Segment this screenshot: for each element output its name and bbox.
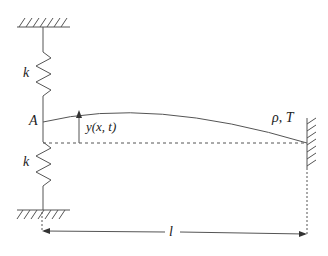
- bottom-spring-icon: [36, 122, 51, 210]
- length-dimension-left: [44, 231, 165, 232]
- top-spring-icon: [36, 27, 51, 122]
- length-dimension-right: [180, 232, 305, 234]
- bottom-ground-icon: [17, 210, 70, 219]
- string-props-label: ρ, T: [272, 111, 294, 125]
- diagram-graphics: [0, 0, 328, 256]
- string-curve: [43, 113, 307, 143]
- length-label: l: [169, 225, 173, 239]
- string-spring-diagram: k k A y(x, t) ρ, T l: [0, 0, 328, 256]
- spring-bottom-label: k: [23, 155, 29, 169]
- top-ground-icon: [17, 18, 70, 27]
- displacement-label: y(x, t): [86, 120, 116, 133]
- spring-top-label: k: [23, 66, 29, 80]
- point-a-label: A: [29, 114, 38, 128]
- right-wall-icon: [307, 118, 316, 168]
